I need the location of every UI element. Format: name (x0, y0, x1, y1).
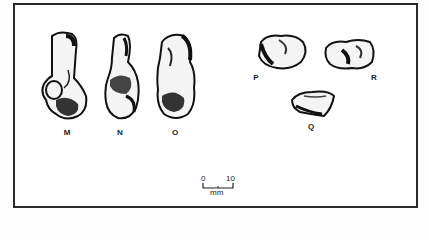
scale-end-label: 10 (226, 174, 235, 183)
specimen-label-o: O (172, 128, 178, 137)
specimen-label-q: Q (308, 122, 314, 131)
specimen-drawing-q (288, 88, 338, 118)
scale-bar: 0 10 mm (200, 174, 240, 198)
specimen-drawing-r (322, 36, 378, 74)
specimen-drawing-o (152, 32, 200, 122)
specimen-label-m: M (64, 128, 71, 137)
specimen-label-p: P (253, 73, 258, 82)
scale-unit-label: mm (210, 188, 223, 197)
scale-start-label: 0 (201, 174, 205, 183)
specimen-label-n: N (117, 128, 123, 137)
specimen-label-r: R (371, 73, 377, 82)
specimen-drawing-n (100, 32, 144, 122)
specimen-drawing-m (38, 30, 94, 122)
specimen-drawing-p (255, 32, 311, 72)
